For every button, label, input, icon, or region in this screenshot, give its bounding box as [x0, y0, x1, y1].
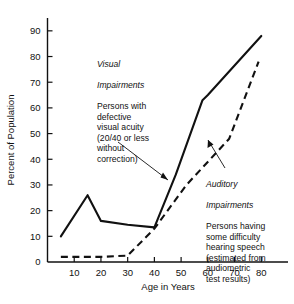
annotation-auditory-heading-1: Auditory: [206, 179, 292, 190]
annotation-auditory-heading-2: Impairments: [206, 200, 292, 211]
y-tick-label: 60: [30, 102, 41, 113]
annotation-visual-impairments: Visual Impairments Persons with defectiv…: [97, 48, 177, 165]
annotation-visual-heading-2: Impairments: [97, 80, 177, 91]
y-tick-label: 90: [30, 25, 41, 36]
chart-figure: 0102030405060708090 1020304050607080 Per…: [0, 0, 294, 304]
annotation-auditory-impairments: Auditory Impairments Persons having some…: [206, 168, 292, 285]
y-tick-label: 70: [30, 77, 41, 88]
x-tick-label: 50: [176, 267, 187, 278]
annotation-auditory-body: Persons having some difficulty hearing s…: [206, 221, 266, 284]
annotation-visual-body: Persons with defective visual acuity (20…: [97, 101, 149, 164]
y-tick-label: 80: [30, 51, 41, 62]
y-axis-ticks: [48, 31, 53, 236]
x-tick-label: 30: [122, 267, 133, 278]
y-tick-label: 20: [30, 205, 41, 216]
y-tick-label: 10: [30, 231, 41, 242]
y-axis-tick-labels: 0102030405060708090: [30, 25, 41, 267]
y-tick-label: 30: [30, 179, 41, 190]
y-axis-title: Percent of Population: [5, 95, 16, 186]
annotation-visual-heading-1: Visual: [97, 59, 177, 70]
y-tick-label: 0: [35, 256, 40, 267]
annotation-arrow-auditory: [208, 140, 226, 168]
x-tick-label: 10: [69, 267, 80, 278]
x-tick-label: 40: [149, 267, 160, 278]
x-tick-label: 20: [96, 267, 107, 278]
y-tick-label: 50: [30, 128, 41, 139]
x-axis-title: Age in Years: [141, 281, 195, 292]
y-tick-label: 40: [30, 154, 41, 165]
